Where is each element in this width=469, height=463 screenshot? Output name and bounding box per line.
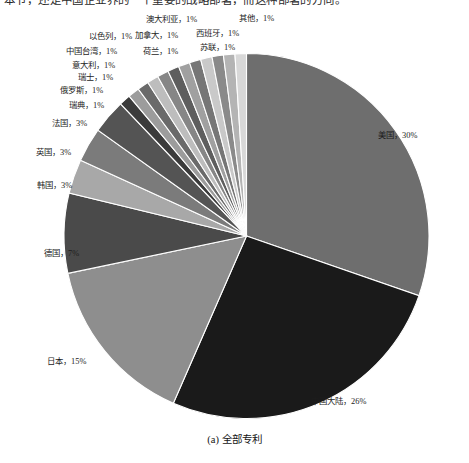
slice-label-usa: 美国，30% <box>378 131 417 141</box>
slice-label-uk: 英国，3% <box>36 148 71 158</box>
slice-label-taiwan: 中国台湾，1% <box>66 47 117 57</box>
slice-label-china: 中国大陆，26% <box>311 397 366 407</box>
slice-label-israel: 以色列，1% <box>89 32 132 42</box>
slice-label-netherlands: 荷兰，1% <box>143 47 178 57</box>
slice-label-switzerland: 瑞士，1% <box>78 73 113 83</box>
slice-label-ussr: 苏联，1% <box>200 43 235 53</box>
slice-label-japan: 日本，15% <box>47 357 86 367</box>
slice-label-australia: 澳大利亚，1% <box>146 15 197 25</box>
figure-caption: (a) 全部专利 <box>0 431 469 446</box>
slice-label-italy: 意大利，1% <box>72 61 115 71</box>
figure-container: 本节，还是中国企业界的一个重要的战略部署，而这种部署的方向。 美国，30% 中国… <box>0 0 469 463</box>
pie-chart-svg <box>0 0 469 463</box>
pie-chart <box>0 0 469 463</box>
slice-label-germany: 德国，7% <box>44 249 79 259</box>
slice-label-korea: 韩国，3% <box>37 181 72 191</box>
slice-label-spain: 西班牙，1% <box>196 29 239 39</box>
slice-label-canada: 加拿大，1% <box>135 31 178 41</box>
slice-label-sweden: 瑞典，1% <box>69 101 104 111</box>
slice-label-other: 其他，1% <box>239 14 274 24</box>
slice-label-france: 法国，3% <box>52 119 87 129</box>
slice-label-russia: 俄罗斯，1% <box>60 86 103 96</box>
pie-slice-group <box>64 54 429 419</box>
